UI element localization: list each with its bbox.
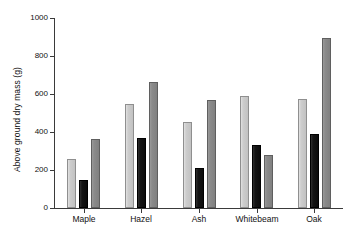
y-axis-tick-label: 0 bbox=[22, 204, 48, 212]
y-axis-tick-label: 1000 bbox=[22, 14, 48, 22]
bar bbox=[298, 99, 307, 208]
bar bbox=[79, 180, 88, 209]
x-axis-tick-label: Ash bbox=[192, 214, 207, 224]
y-axis-tick-mark bbox=[50, 18, 54, 19]
y-axis-tick-mark bbox=[50, 170, 54, 171]
bar bbox=[149, 82, 158, 208]
x-axis-tick-label: Oak bbox=[306, 214, 322, 224]
x-axis-tick-label: Whitebeam bbox=[236, 214, 279, 224]
bar bbox=[322, 38, 331, 208]
x-axis-tick-mark bbox=[199, 209, 200, 213]
y-axis-tick-labels: 02004006008001000 bbox=[20, 0, 48, 239]
y-axis-tick-label: 600 bbox=[22, 90, 48, 98]
x-axis-tick-mark bbox=[84, 209, 85, 213]
bar bbox=[195, 168, 204, 208]
bar bbox=[264, 155, 273, 208]
y-axis-line bbox=[54, 18, 55, 209]
bar bbox=[310, 134, 319, 208]
bar bbox=[125, 104, 134, 209]
bar bbox=[240, 96, 249, 208]
x-axis-tick-label: Maple bbox=[72, 214, 95, 224]
y-axis-tick-mark bbox=[50, 132, 54, 133]
y-axis-tick-mark bbox=[50, 94, 54, 95]
bar-chart-figure: Above ground dry mass (g) 02004006008001… bbox=[0, 0, 351, 239]
x-axis-tick-mark bbox=[141, 209, 142, 213]
bar bbox=[91, 139, 100, 208]
x-axis-tick-mark bbox=[314, 209, 315, 213]
y-axis-tick-mark bbox=[50, 208, 54, 209]
x-axis-tick-label: Hazel bbox=[130, 214, 152, 224]
bar bbox=[183, 122, 192, 208]
bar bbox=[252, 145, 261, 208]
bar bbox=[207, 100, 216, 208]
bar bbox=[67, 159, 76, 208]
bar bbox=[137, 138, 146, 208]
y-axis-tick-mark bbox=[50, 56, 54, 57]
x-axis-tick-mark bbox=[257, 209, 258, 213]
y-axis-tick-label: 200 bbox=[22, 166, 48, 174]
y-axis-tick-label: 400 bbox=[22, 128, 48, 136]
y-axis-tick-label: 800 bbox=[22, 52, 48, 60]
